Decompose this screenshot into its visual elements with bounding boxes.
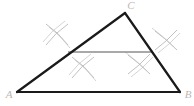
- triangle-figure: A B C: [0, 0, 194, 106]
- vertex-label-c: C: [127, 0, 135, 11]
- arc-pair-upper-right: [152, 28, 180, 53]
- arc-pair-lower-right: [125, 52, 153, 77]
- vertex-label-a: A: [5, 88, 13, 100]
- vertex-label-b: B: [185, 88, 192, 100]
- geometry-diagram: A B C: [0, 0, 194, 106]
- arc-marks-layer: [43, 21, 180, 81]
- arc-pair-upper-left: [43, 21, 70, 48]
- arc-pair-lower-left: [69, 54, 96, 81]
